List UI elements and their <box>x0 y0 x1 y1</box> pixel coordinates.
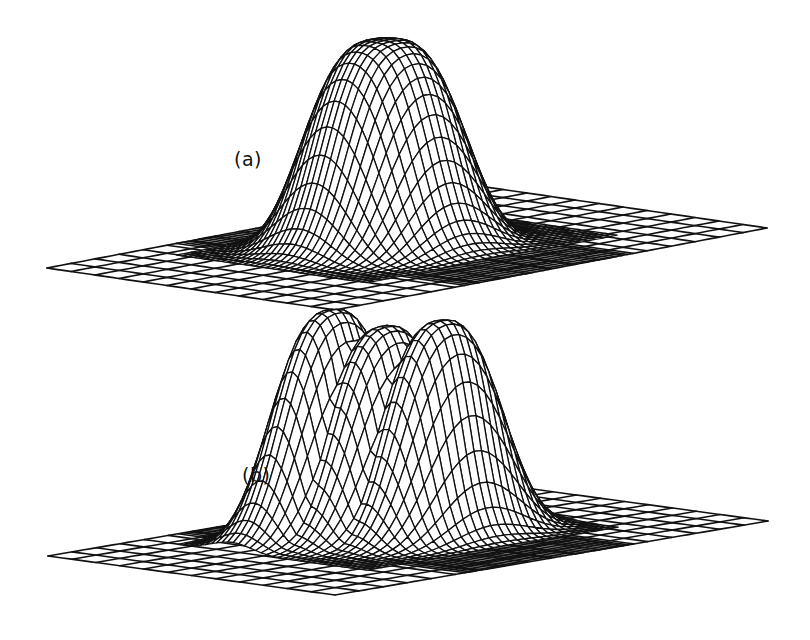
surface-plot-b-graphic <box>0 300 810 640</box>
surface-plot-a-graphic <box>0 0 810 320</box>
panel-label-b: (b) <box>242 464 270 486</box>
panel-label-a: (a) <box>234 148 262 170</box>
surface-plot-b: (b) <box>0 300 810 640</box>
peak-surface-b <box>178 309 619 570</box>
surface-plot-a: (a) <box>0 0 810 320</box>
